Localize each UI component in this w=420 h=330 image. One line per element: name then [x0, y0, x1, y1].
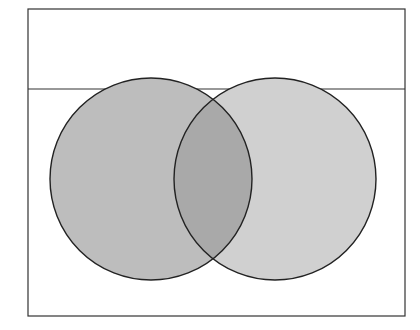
venn-diagram: [0, 0, 420, 330]
